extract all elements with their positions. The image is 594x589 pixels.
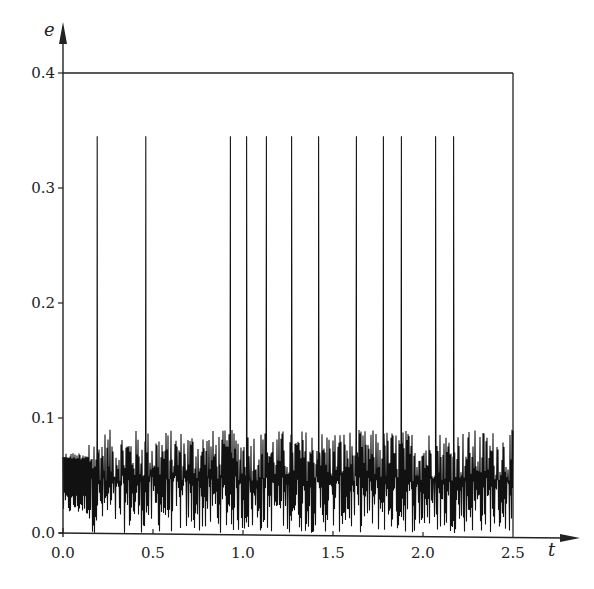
series-line bbox=[63, 136, 513, 533]
x-tick-label: 2.5 bbox=[501, 544, 525, 562]
x-tick-label: 1.0 bbox=[231, 544, 255, 562]
y-axis-arrow-icon bbox=[59, 22, 67, 44]
x-axis-line bbox=[59, 533, 565, 538]
y-tick-label: 0.4 bbox=[31, 64, 55, 82]
x-tick-label: 1.5 bbox=[321, 544, 345, 562]
y-tick-label: 0.0 bbox=[31, 524, 55, 542]
x-tick-label: 0.0 bbox=[51, 544, 75, 562]
y-axis-label: e bbox=[44, 19, 55, 40]
x-tick-label: 2.0 bbox=[411, 544, 435, 562]
y-tick-label: 0.3 bbox=[31, 179, 55, 197]
y-tick-label: 0.2 bbox=[31, 294, 55, 312]
x-tick-label: 0.5 bbox=[141, 544, 165, 562]
x-axis-arrow-icon bbox=[560, 534, 580, 542]
x-axis-label: t bbox=[548, 539, 556, 560]
data-series-e bbox=[63, 136, 513, 533]
chart-canvas: 0.00.10.20.30.40.00.51.01.52.02.5 e t bbox=[0, 0, 594, 589]
y-tick-label: 0.1 bbox=[31, 409, 55, 427]
